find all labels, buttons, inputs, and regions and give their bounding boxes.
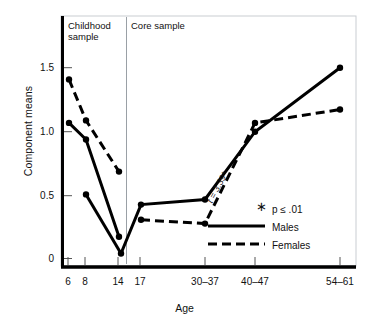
legend-males-label: Males [272,222,299,234]
x-tick-label-8: 8 [75,276,95,288]
x-tick-label-30-37: 30–37 [183,276,227,288]
x-axis-title: Age [0,302,369,314]
childhood-sample-annotation: Childhood sample [68,21,111,43]
figure-container: Component means Age 1.5 1.0 0.5 0 6 8 14… [0,0,369,324]
childhood-sample-line2: sample [68,31,99,42]
legend-significance-label: p ≤ .01 [272,204,303,216]
x-tick-label-14: 14 [106,276,130,288]
y-tick-label-0-5: 0.5 [24,190,54,202]
x-tick-label-54-61: 54–61 [318,276,362,288]
y-tick-label-1-0: 1.0 [24,126,54,138]
childhood-sample-line1: Childhood [68,20,111,31]
y-tick-label-1-5: 1.5 [24,62,54,74]
core-sample-annotation: Core sample [131,21,185,32]
y-tick-label-0: 0 [24,253,54,265]
legend-significance-star-icon: ∗ [256,200,267,215]
x-tick-label-40-47: 40–47 [233,276,277,288]
legend-females-label: Females [272,240,310,252]
x-tick-label-17: 17 [128,276,152,288]
